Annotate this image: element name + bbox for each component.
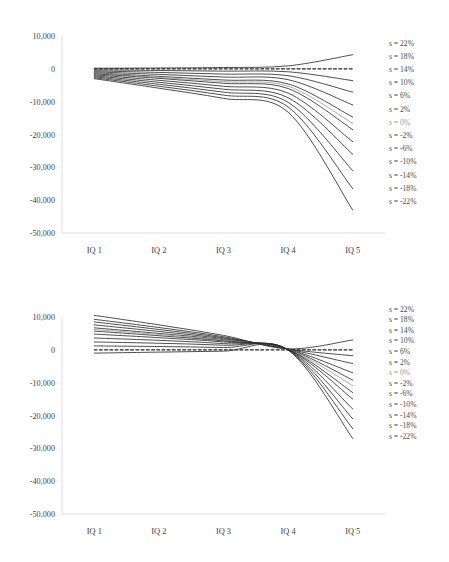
line-chart-top: 10,0000-10,000-20,000-30,000-40,000-50,0… <box>0 0 449 281</box>
top-ytick-label: -10,000 <box>30 98 55 107</box>
bottom-series-label: s = 10% <box>389 336 415 345</box>
bottom-series-line <box>94 342 352 419</box>
top-ytick-label: -20,000 <box>30 131 55 140</box>
chart-panel-bottom: 10,0000-10,000-20,000-30,000-40,000-50,0… <box>0 281 449 562</box>
top-category-labels: IQ 1IQ 2IQ 3IQ 4IQ 5 <box>87 246 361 255</box>
bottom-series-label: s = -22% <box>389 432 417 441</box>
bottom-series-label: s = 6% <box>389 347 411 356</box>
top-series-label: s = -14% <box>389 171 417 180</box>
bottom-ytick-label: 0 <box>51 346 55 355</box>
bottom-series-line <box>94 338 352 409</box>
top-series-label: s = -2% <box>389 131 413 140</box>
top-series-line <box>94 55 352 68</box>
bottom-series-label: s = 0% <box>389 368 411 377</box>
bottom-series-label: s = -6% <box>389 389 413 398</box>
bottom-category-labels: IQ 1IQ 2IQ 3IQ 4IQ 5 <box>87 527 361 536</box>
bottom-ytick-label: -40,000 <box>30 477 55 486</box>
top-axes <box>62 36 385 233</box>
top-series-label: s = -10% <box>389 157 417 166</box>
top-series-label: s = 22% <box>389 39 415 48</box>
top-ytick-label: 0 <box>51 65 55 74</box>
top-series-label: s = -22% <box>389 197 417 206</box>
bottom-series-label: s = -14% <box>389 411 417 420</box>
bottom-series-label: s = 22% <box>389 305 415 314</box>
top-series-line <box>94 78 352 189</box>
bottom-series-line <box>94 343 352 428</box>
top-series-line <box>94 74 352 130</box>
top-series-line <box>94 76 352 154</box>
bottom-category-label: IQ 1 <box>87 527 102 536</box>
top-ytick-label: -40,000 <box>30 196 55 205</box>
bottom-category-label: IQ 4 <box>281 527 297 536</box>
top-category-label: IQ 4 <box>281 246 297 255</box>
top-series-line <box>94 77 352 171</box>
top-series-labels: s = 22%s = 18%s = 14%s = 10%s = 6%s = 2%… <box>389 39 417 206</box>
top-series-label: s = -18% <box>389 184 417 193</box>
bottom-series-label: s = -18% <box>389 421 417 430</box>
chart-panel-top: 10,0000-10,000-20,000-30,000-40,000-50,0… <box>0 0 449 281</box>
top-category-label: IQ 5 <box>345 246 360 255</box>
bottom-series-label: s = -2% <box>389 379 413 388</box>
top-series-label: s = 10% <box>389 78 415 87</box>
bottom-ytick-labels: 10,0000-10,000-20,000-30,000-40,000-50,0… <box>30 313 55 519</box>
top-series-label: s = 14% <box>389 65 415 74</box>
top-ytick-label: -50,000 <box>30 229 55 238</box>
bottom-series-label: s = -10% <box>389 400 417 409</box>
bottom-series-label: s = 2% <box>389 358 411 367</box>
bottom-ytick-label: 10,000 <box>32 313 55 322</box>
top-series-label: s = 0% <box>389 118 411 127</box>
top-series-line <box>94 75 352 142</box>
bottom-ytick-label: -30,000 <box>30 444 55 453</box>
top-series-label: s = -6% <box>389 144 413 153</box>
top-series-label: s = 18% <box>389 52 415 61</box>
bottom-series-paths <box>94 315 352 438</box>
top-ytick-label: 10,000 <box>32 32 55 41</box>
top-series-label: s = 6% <box>389 91 411 100</box>
bottom-ytick-label: -20,000 <box>30 412 55 421</box>
chart-stack: 10,0000-10,000-20,000-30,000-40,000-50,0… <box>0 0 449 562</box>
top-category-label: IQ 2 <box>151 246 166 255</box>
bottom-axes <box>62 317 385 514</box>
bottom-category-label: IQ 2 <box>151 527 166 536</box>
line-chart-bottom: 10,0000-10,000-20,000-30,000-40,000-50,0… <box>0 281 449 562</box>
bottom-series-label: s = 18% <box>389 315 415 324</box>
bottom-category-label: IQ 5 <box>345 527 360 536</box>
top-series-paths <box>94 55 352 210</box>
bottom-series-labels: s = 22%s = 18%s = 14%s = 10%s = 6%s = 2%… <box>389 305 417 441</box>
top-category-label: IQ 1 <box>87 246 102 255</box>
bottom-ytick-label: -50,000 <box>30 510 55 519</box>
bottom-category-label: IQ 3 <box>216 527 231 536</box>
bottom-series-label: s = 14% <box>389 326 415 335</box>
bottom-ytick-label: -10,000 <box>30 379 55 388</box>
top-series-label: s = 2% <box>389 105 411 114</box>
top-ytick-label: -30,000 <box>30 163 55 172</box>
top-category-label: IQ 3 <box>216 246 231 255</box>
top-ytick-labels: 10,0000-10,000-20,000-30,000-40,000-50,0… <box>30 32 55 238</box>
